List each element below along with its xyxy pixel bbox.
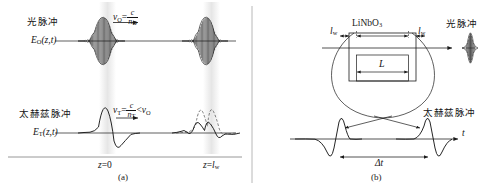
- crystal-length-label: L: [379, 59, 385, 69]
- time-axis-label: t: [462, 129, 465, 139]
- optical-pulse-label-b: 光脉冲: [446, 19, 478, 29]
- terahertz-velocity-fraction: cnT: [126, 102, 136, 121]
- optical-velocity-denominator: nO: [127, 18, 138, 27]
- axis-position-zero: z=0: [98, 161, 112, 171]
- terahertz-field-symbol-a: ET(z,t): [33, 128, 58, 138]
- optical-velocity-formula: vO=cnO: [113, 9, 138, 28]
- position-value-subscript: w: [215, 163, 220, 170]
- position-value: 0: [107, 160, 112, 170]
- terahertz-pulse-label-a: 太赫兹脉冲: [19, 109, 72, 119]
- crystal-walkoff-guides: [357, 31, 409, 38]
- terahertz-field-args: (z,t): [43, 127, 58, 137]
- comparison-velocity-subscript: O: [146, 109, 151, 116]
- walkoff-subscript-left: w: [333, 29, 338, 36]
- optical-pulse-label-a: 光脉冲: [27, 17, 59, 27]
- terahertz-velocity-formula: vT=cnT<vO: [113, 102, 151, 121]
- crystal-material-label: LiNbO3: [352, 19, 382, 29]
- crystal-formula-linbo: LiNbO: [352, 18, 379, 28]
- terahertz-velocity-denominator: nT: [126, 111, 136, 120]
- delay-label: Δt: [375, 159, 383, 169]
- walkoff-label-right: lw: [418, 27, 425, 37]
- walkoff-subscript-right: w: [421, 29, 426, 36]
- axis-position-walkoff: z=lw: [203, 161, 219, 171]
- terahertz-emission-envelope: [332, 33, 435, 118]
- panel-a-caption: (a): [118, 173, 128, 182]
- crystal-box: [349, 33, 416, 81]
- terahertz-index-subscript: T: [131, 112, 135, 119]
- optical-index-subscript: O: [132, 19, 137, 26]
- optical-field-args: (z,t): [41, 35, 56, 45]
- terahertz-pulse-first: [295, 118, 362, 156]
- optical-velocity-fraction: cnO: [127, 9, 138, 28]
- figure-terahertz-walkoff: 光脉冲 EO(z,t) vO=cnO 太赫兹脉冲 ET(z,t) vT=cnT<…: [0, 0, 498, 189]
- optical-field-symbol-a: EO(z,t): [31, 36, 56, 46]
- walkoff-label-left: lw: [330, 27, 337, 37]
- terahertz-pulse-label-b: 太赫兹脉冲: [423, 108, 476, 118]
- optical-pulse-glyph: [462, 33, 478, 63]
- crystal-formula-subscript: 3: [379, 21, 382, 28]
- panel-b-caption: (b): [371, 173, 382, 182]
